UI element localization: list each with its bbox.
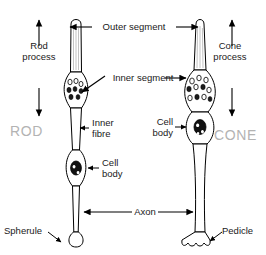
rod-name-label: ROD xyxy=(10,126,58,137)
rod-process-label: Rod process xyxy=(8,40,70,62)
inner-segment-label: Inner segment xyxy=(104,72,182,83)
axon-label: Axon xyxy=(120,206,170,217)
outer-segment-label: Outer segment xyxy=(95,21,173,32)
rod-cell-body-label: Cell body xyxy=(102,157,142,179)
photoreceptor-diagram: Rod process Cone process Outer segment I… xyxy=(0,0,266,255)
spherule-label: Spherule xyxy=(4,225,56,236)
rod-spherule xyxy=(69,232,83,247)
cone-name-label: CONE xyxy=(214,130,266,141)
rod-inner-fibre xyxy=(71,108,82,150)
rod-axon xyxy=(73,186,80,232)
rod-nucleus xyxy=(71,161,82,175)
pedicle-label: Pedicle xyxy=(222,225,266,236)
cone-process-label: Cone process xyxy=(198,40,262,62)
inner-fibre-label: Inner fibre xyxy=(92,117,132,139)
cone-axon xyxy=(193,144,207,232)
pedicle-arrow xyxy=(210,232,222,241)
cone-cell-body-label: Cell body xyxy=(135,116,173,138)
cone-pedicle xyxy=(182,232,210,246)
cone-nucleus xyxy=(194,120,206,135)
